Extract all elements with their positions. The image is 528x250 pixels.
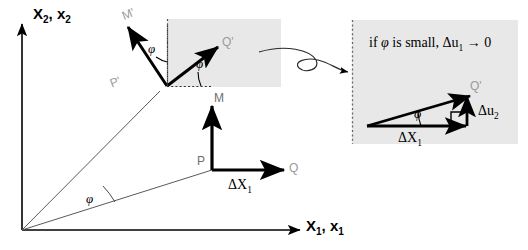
detail-q-prime-label: Q'	[470, 80, 482, 92]
delta-x1-main-label: ΔX1	[228, 178, 252, 195]
axis-label-x1: X1, x1	[306, 218, 344, 237]
origin-rotation-angle-arc	[103, 186, 115, 202]
vector-q-prime-label: Q'	[222, 36, 234, 48]
phi-label-q-prime: φ	[196, 57, 203, 70]
deformed-element-inset-panel	[167, 19, 281, 87]
position-ray-to-p-prime	[22, 91, 160, 230]
vector-q-label: Q	[289, 162, 298, 174]
detail-delta-x1-label: ΔX1	[398, 131, 422, 148]
m-prime-angle-arc	[156, 57, 168, 62]
position-ray-to-p	[22, 170, 212, 230]
point-p-label: P	[197, 155, 205, 167]
axis-label-x2: X2, x2	[33, 6, 71, 25]
phi-label-m-prime: φ	[148, 42, 155, 55]
vector-m-prime-arrow	[128, 27, 167, 86]
phi-label-origin: φ	[86, 192, 93, 205]
detail-delta-u2-label: Δu2	[478, 104, 499, 121]
small-angle-note: if φ is small, Δu1 → 0	[369, 36, 491, 53]
vector-m-label: M	[214, 92, 224, 104]
phi-label-detail: φ	[414, 107, 421, 120]
figure-root: X2, x2 X1, x1 P M Q ΔX1 M' P' Q' φ φ φ φ…	[0, 0, 528, 250]
